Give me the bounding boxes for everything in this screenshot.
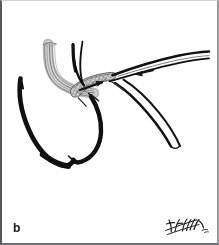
artist-signature bbox=[164, 211, 210, 239]
panel-label: b bbox=[13, 222, 20, 234]
figure-panel: b bbox=[0, 0, 219, 245]
illustration-background bbox=[2, 1, 219, 245]
illustration-canvas bbox=[2, 1, 219, 245]
